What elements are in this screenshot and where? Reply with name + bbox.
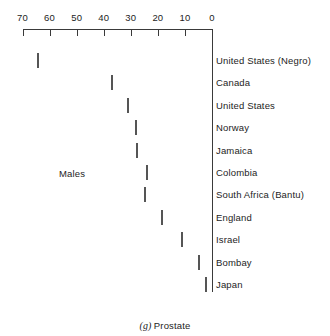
bar-category-label: Japan — [216, 277, 243, 292]
bar — [111, 75, 113, 90]
bar-row — [181, 232, 212, 247]
bar — [146, 165, 148, 180]
bar-category-label: England — [216, 210, 252, 225]
bar-category-label: Bombay — [216, 255, 252, 270]
bar — [127, 98, 129, 113]
caption-tag: (g) — [140, 320, 152, 331]
bar-row — [37, 53, 212, 68]
bar-row — [127, 98, 212, 113]
bar — [135, 120, 137, 135]
bar-row — [111, 75, 212, 90]
bar-row — [198, 255, 212, 270]
bar-category-label: Norway — [216, 120, 249, 135]
bar — [136, 143, 138, 158]
bar-row — [161, 210, 212, 225]
bar-row — [136, 143, 212, 158]
bar — [37, 53, 39, 68]
bar — [161, 210, 163, 225]
caption-text: Prostate — [154, 320, 191, 331]
prostate-bar-chart: 706050403020100 United States (Negro)Can… — [0, 0, 330, 336]
bar-category-label: South Africa (Bantu) — [216, 187, 304, 202]
bar-category-label: Colombia — [216, 165, 257, 180]
bar-row — [144, 187, 212, 202]
figure-caption: (g) Prostate — [0, 320, 330, 331]
bar-row — [135, 120, 212, 135]
bar — [198, 255, 200, 270]
bar-category-label: United States (Negro) — [216, 53, 311, 68]
bar-row — [146, 165, 212, 180]
plot-area: United States (Negro)CanadaUnited States… — [0, 0, 330, 336]
bar — [205, 277, 207, 292]
bar-row — [205, 277, 212, 292]
bar — [181, 232, 183, 247]
bar-category-label: Jamaica — [216, 143, 252, 158]
bar-category-label: Canada — [216, 75, 250, 90]
group-label: Males — [59, 168, 85, 179]
bar — [144, 187, 146, 202]
bar-category-label: Israel — [216, 232, 240, 247]
bar-category-label: United States — [216, 98, 275, 113]
